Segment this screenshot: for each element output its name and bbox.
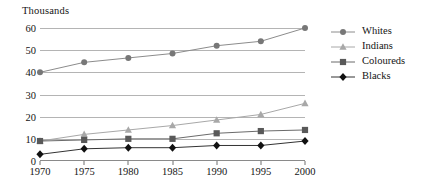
- circle-icon: [330, 25, 356, 39]
- legend-item-label: Coloureds: [362, 56, 405, 67]
- y-axis-tick-label: 10: [26, 133, 37, 144]
- x-axis-tick: 1970: [30, 161, 51, 177]
- x-axis-tick-mark: [305, 161, 306, 165]
- diamond-marker: [125, 144, 132, 152]
- circle-marker: [125, 55, 131, 61]
- diamond-marker: [81, 145, 88, 153]
- y-axis-tick-label: 40: [26, 67, 37, 78]
- x-axis-tick-mark: [172, 161, 173, 165]
- x-axis-tick: 1990: [206, 161, 227, 177]
- y-axis-tick-label: 30: [26, 89, 37, 100]
- x-axis-tick-label: 1990: [206, 166, 227, 177]
- plot-area: 0102030405060 19701975198019851990199520…: [40, 28, 305, 161]
- line-chart: Thousands 0102030405060 1970197519801985…: [0, 0, 425, 188]
- circle-marker: [258, 38, 264, 44]
- x-axis-tick-mark: [40, 161, 41, 165]
- square-marker: [302, 127, 308, 133]
- diamond-icon: [330, 70, 356, 84]
- legend-item-label: Indians: [362, 41, 393, 52]
- series-line: [40, 28, 305, 72]
- y-axis-tick-label: 20: [26, 111, 37, 122]
- series-plot: [40, 28, 305, 161]
- square-marker: [258, 128, 264, 134]
- legend-item-blacks[interactable]: Blacks: [330, 69, 425, 84]
- legend-item-indians[interactable]: Indians: [330, 39, 425, 54]
- circle-marker: [302, 25, 308, 31]
- x-axis-tick-label: 2000: [295, 166, 316, 177]
- y-axis-unit-label: Thousands: [22, 5, 69, 16]
- square-marker: [37, 138, 43, 144]
- circle-marker: [340, 29, 346, 35]
- triangle-icon: [330, 40, 356, 54]
- series-whites: [37, 25, 308, 75]
- x-axis-tick: 1975: [74, 161, 95, 177]
- x-axis-tick-mark: [216, 161, 217, 165]
- square-marker: [125, 136, 131, 142]
- diamond-marker: [36, 150, 43, 158]
- x-axis-tick: 2000: [295, 161, 316, 177]
- x-axis-tick-mark: [260, 161, 261, 165]
- square-marker: [214, 130, 220, 136]
- diamond-marker: [339, 73, 346, 81]
- diamond-marker: [213, 141, 220, 149]
- square-marker: [340, 58, 346, 64]
- circle-marker: [214, 43, 220, 49]
- y-axis-tick-label: 50: [26, 45, 37, 56]
- x-axis-tick-mark: [128, 161, 129, 165]
- x-axis-tick-label: 1985: [162, 166, 183, 177]
- x-axis-tick-label: 1970: [30, 166, 51, 177]
- diamond-marker: [301, 137, 308, 145]
- x-axis-tick-label: 1975: [74, 166, 95, 177]
- circle-marker: [37, 69, 43, 75]
- legend-item-coloureds[interactable]: Coloureds: [330, 54, 425, 69]
- square-marker: [81, 137, 87, 143]
- x-axis-tick: 1985: [162, 161, 183, 177]
- diamond-marker: [257, 141, 264, 149]
- legend-item-label: Blacks: [362, 71, 391, 82]
- x-axis-tick: 1980: [118, 161, 139, 177]
- square-marker: [169, 136, 175, 142]
- circle-marker: [170, 50, 176, 56]
- triangle-marker: [301, 100, 308, 107]
- x-axis-tick-mark: [84, 161, 85, 165]
- x-axis-tick-label: 1980: [118, 166, 139, 177]
- square-icon: [330, 55, 356, 69]
- chart-legend: WhitesIndiansColouredsBlacks: [330, 24, 425, 84]
- legend-item-whites[interactable]: Whites: [330, 24, 425, 39]
- y-axis-tick-label: 60: [26, 23, 37, 34]
- x-axis-tick: 1995: [250, 161, 271, 177]
- x-axis-tick-label: 1995: [250, 166, 271, 177]
- circle-marker: [81, 59, 87, 65]
- legend-item-label: Whites: [362, 26, 392, 37]
- diamond-marker: [169, 144, 176, 152]
